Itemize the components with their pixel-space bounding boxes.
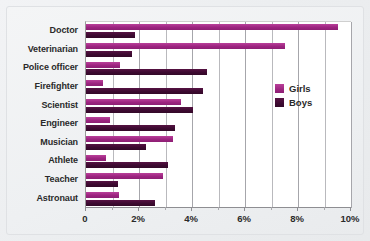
bar-boys	[86, 51, 132, 57]
bar-girls	[86, 173, 163, 179]
legend-item-girls[interactable]: Girls	[275, 83, 312, 94]
chart-figure-panel: DoctorVeterinarianPolice officerFirefigh…	[6, 6, 364, 235]
x-tick-minor	[218, 207, 219, 210]
bar-boys	[86, 69, 207, 75]
y-axis-label: Veterinarian	[7, 40, 83, 59]
x-tick-label: 4%	[184, 213, 198, 224]
bar-row	[86, 59, 351, 78]
bar-girls	[86, 155, 106, 161]
bar-girls	[86, 43, 285, 49]
bar-boys	[86, 144, 146, 150]
y-axis-label: Teacher	[7, 170, 83, 189]
x-tick	[191, 207, 192, 211]
legend-label: Girls	[289, 83, 311, 94]
bar-boys	[86, 200, 155, 206]
x-tick-label: 6%	[237, 213, 251, 224]
x-tick-minor	[165, 207, 166, 210]
x-tick	[244, 207, 245, 211]
y-axis-label: Police officer	[7, 58, 83, 77]
bar-boys	[86, 162, 168, 168]
x-tick	[297, 207, 298, 211]
x-tick	[350, 207, 351, 211]
plot-area	[85, 21, 351, 208]
chart-legend: GirlsBoys	[275, 83, 312, 108]
bar-row	[86, 189, 351, 208]
bar-boys	[86, 181, 118, 187]
y-axis-label: Engineer	[7, 114, 83, 133]
x-tick-label: 2%	[131, 213, 145, 224]
x-tick-minor	[112, 207, 113, 210]
bar-girls	[86, 24, 338, 30]
gridline-major	[351, 22, 352, 208]
x-tick-label: 0	[82, 213, 87, 224]
bar-girls	[86, 192, 119, 198]
x-tick	[138, 207, 139, 211]
legend-label: Boys	[289, 97, 312, 108]
y-axis-label: Doctor	[7, 21, 83, 40]
bar-row	[86, 152, 351, 171]
y-axis-label: Astronaut	[7, 188, 83, 207]
bar-rows	[86, 22, 351, 208]
bar-row	[86, 115, 351, 134]
legend-swatch-icon	[275, 84, 284, 93]
bar-girls	[86, 62, 120, 68]
x-tick-minor	[271, 207, 272, 210]
x-tick	[85, 207, 86, 211]
x-tick-label: 8%	[290, 213, 304, 224]
y-axis-label: Firefighter	[7, 77, 83, 96]
chart-figure: DoctorVeterinarianPolice officerFirefigh…	[0, 0, 370, 241]
bar-boys	[86, 88, 203, 94]
bar-row	[86, 134, 351, 153]
y-axis-label: Scientist	[7, 95, 83, 114]
y-axis-label: Musician	[7, 133, 83, 152]
legend-item-boys[interactable]: Boys	[275, 97, 312, 108]
bar-girls	[86, 117, 110, 123]
bar-boys	[86, 107, 193, 113]
x-tick-label: 10%	[340, 213, 359, 224]
legend-swatch-icon	[275, 98, 284, 107]
x-tick-minor	[324, 207, 325, 210]
bar-girls	[86, 99, 181, 105]
bar-row	[86, 171, 351, 190]
bar-girls	[86, 136, 173, 142]
y-axis-label: Athlete	[7, 151, 83, 170]
bar-boys	[86, 125, 175, 131]
bar-row	[86, 22, 351, 41]
bar-boys	[86, 32, 135, 38]
y-axis-category-labels: DoctorVeterinarianPolice officerFirefigh…	[7, 21, 83, 207]
bar-row	[86, 41, 351, 60]
bar-girls	[86, 80, 103, 86]
